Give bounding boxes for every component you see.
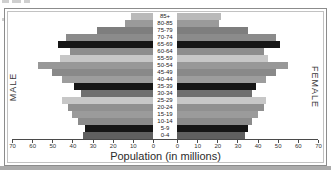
chart-frame: MALE FEMALE [4, 8, 327, 166]
page-background-band [0, 166, 331, 170]
male-axis-label: MALE [8, 73, 18, 102]
population-pyramid-figure: MALE FEMALE 85+80-8575-7970-7465-6960-64… [0, 0, 331, 170]
cropped-text-fragment [2, 0, 42, 4]
chart-inner-frame: MALE FEMALE [7, 11, 324, 163]
female-axis-label: FEMALE [310, 66, 320, 108]
